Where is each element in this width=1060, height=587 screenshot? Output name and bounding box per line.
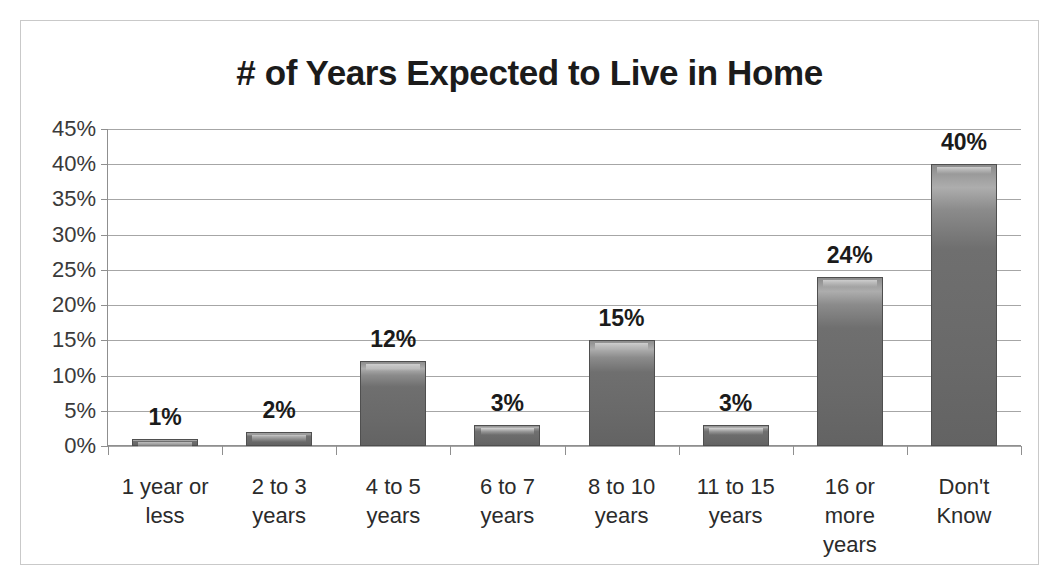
bar[interactable] [360,361,426,446]
y-axis-tick [101,129,108,130]
bar[interactable] [246,432,312,446]
y-axis-tick-label: 35% [52,186,96,212]
bar[interactable] [931,164,997,446]
y-axis-tick-label: 25% [52,257,96,283]
y-axis-tick [101,305,108,306]
x-axis-tick [1021,446,1022,455]
y-axis-tick-label: 0% [64,433,96,459]
bar-slot: 12% [336,129,450,446]
chart-title: # of Years Expected to Live in Home [21,55,1038,90]
x-axis-category-label: 2 to 3years [222,472,336,530]
bar[interactable] [817,277,883,446]
y-axis-tick [101,446,108,447]
y-axis-tick-label: 45% [52,116,96,142]
bar-value-label: 12% [370,326,416,353]
bar-value-label: 15% [599,305,645,332]
bar-slot: 3% [679,129,793,446]
bar-value-label: 2% [263,397,296,424]
bar[interactable] [703,425,769,446]
bar-value-label: 3% [719,390,752,417]
x-axis-category-label: 1 year orless [108,472,222,530]
y-axis-tick-label: 5% [64,398,96,424]
y-axis-tick-label: 15% [52,327,96,353]
y-axis-tick-label: 40% [52,151,96,177]
x-axis-category-label: 6 to 7years [450,472,564,530]
bar[interactable] [132,439,198,446]
y-axis-tick [101,235,108,236]
x-axis-category-label: Don'tKnow [907,472,1021,530]
bar-slot: 15% [565,129,679,446]
bar-slot: 40% [907,129,1021,446]
bar-value-label: 24% [827,242,873,269]
x-axis-category-label: 4 to 5years [336,472,450,530]
bar-slot: 24% [793,129,907,446]
y-axis-tick [101,270,108,271]
bar-slot: 2% [222,129,336,446]
y-axis-tick [101,376,108,377]
bar-slot: 3% [450,129,564,446]
bar-slot: 1% [108,129,222,446]
y-axis-tick-label: 30% [52,222,96,248]
bar-value-label: 3% [491,390,524,417]
y-axis-tick [101,199,108,200]
x-axis-category-labels: 1 year orless2 to 3years4 to 5years6 to … [108,446,1021,556]
plot-area: 0%5%10%15%20%25%30%35%40%45% 1%2%12%3%15… [108,129,1021,446]
bar-value-label: 1% [148,404,181,431]
bar[interactable] [589,340,655,446]
y-axis-tick-label: 10% [52,363,96,389]
bar[interactable] [474,425,540,446]
bar-value-label: 40% [941,129,987,156]
x-axis-category-label: 16 ormoreyears [793,472,907,559]
y-axis-tick-label: 20% [52,292,96,318]
x-axis-category-label: 8 to 10years [565,472,679,530]
x-axis-category-label: 11 to 15years [679,472,793,530]
y-axis-tick [101,340,108,341]
y-axis-tick [101,164,108,165]
y-axis-tick [101,411,108,412]
chart-frame: # of Years Expected to Live in Home 0%5%… [20,20,1039,565]
